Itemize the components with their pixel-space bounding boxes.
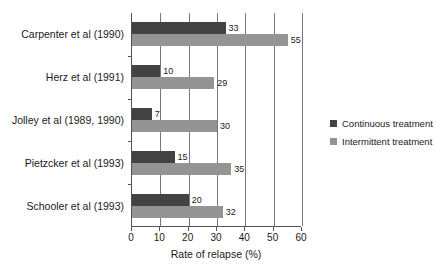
- x-tick-mark-0: [131, 227, 132, 231]
- bar-value-label: 32: [226, 206, 236, 218]
- category-tick: [128, 99, 132, 100]
- x-tick-mark-10: [159, 227, 160, 231]
- bar-value-label: 55: [291, 34, 301, 46]
- bar-group: 1535: [132, 151, 301, 175]
- plot-area: 3355102973015352032: [131, 13, 301, 227]
- bar-group: 1029: [132, 65, 301, 89]
- x-tick-label: 0: [116, 232, 146, 244]
- bar-continuous: [132, 65, 160, 77]
- x-tick-label: 10: [144, 232, 174, 244]
- bar-intermittent: [132, 120, 217, 132]
- category-label: Schooler et al (1993): [0, 200, 124, 212]
- bar-intermittent: [132, 77, 214, 89]
- legend-swatch-icon: [330, 138, 337, 145]
- bar-value-label: 29: [217, 77, 227, 89]
- category-tick: [128, 141, 132, 142]
- bar-continuous: [132, 22, 226, 34]
- x-tick-label: 30: [201, 232, 231, 244]
- x-tick-mark-60: [301, 227, 302, 231]
- x-tick-label: 60: [286, 232, 316, 244]
- bar-intermittent: [132, 206, 223, 218]
- bar-continuous: [132, 194, 189, 206]
- bar-value-label: 30: [220, 120, 230, 132]
- legend-item: Continuous treatment: [330, 118, 433, 129]
- bar-group: 2032: [132, 194, 301, 218]
- bar-value-label: 10: [163, 65, 173, 77]
- x-tick-label: 50: [258, 232, 288, 244]
- x-tick-label: 40: [229, 232, 259, 244]
- bar-value-label: 7: [155, 108, 160, 120]
- x-tick-label: 20: [173, 232, 203, 244]
- category-label: Pietzcker et al (1993): [0, 157, 124, 169]
- x-tick-mark-50: [273, 227, 274, 231]
- bar-group: 730: [132, 108, 301, 132]
- bar-value-label: 33: [229, 22, 239, 34]
- category-tick: [128, 56, 132, 57]
- chart-legend: Continuous treatmentIntermittent treatme…: [330, 118, 433, 154]
- legend-label: Intermittent treatment: [342, 136, 432, 147]
- x-tick-mark-40: [244, 227, 245, 231]
- bar-value-label: 20: [192, 194, 202, 206]
- bar-value-label: 35: [234, 163, 244, 175]
- bar-continuous: [132, 151, 175, 163]
- bar-group: 3355: [132, 22, 301, 46]
- category-label: Carpenter et al (1990): [0, 28, 124, 40]
- bar-value-label: 15: [178, 151, 188, 163]
- x-tick-mark-20: [188, 227, 189, 231]
- legend-swatch-icon: [330, 120, 337, 127]
- x-tick-mark-30: [216, 227, 217, 231]
- x-axis-title: Rate of relapse (%): [131, 248, 301, 260]
- bar-intermittent: [132, 34, 288, 46]
- bar-continuous: [132, 108, 152, 120]
- category-tick: [128, 184, 132, 185]
- category-label: Herz et al (1991): [0, 71, 124, 83]
- legend-label: Continuous treatment: [342, 118, 433, 129]
- gridline-60: [302, 13, 303, 226]
- legend-item: Intermittent treatment: [330, 136, 433, 147]
- relapse-rate-bar-chart: Carpenter et al (1990)Herz et al (1991)J…: [0, 0, 436, 271]
- bar-intermittent: [132, 163, 231, 175]
- category-label: Jolley et al (1989, 1990): [0, 114, 124, 126]
